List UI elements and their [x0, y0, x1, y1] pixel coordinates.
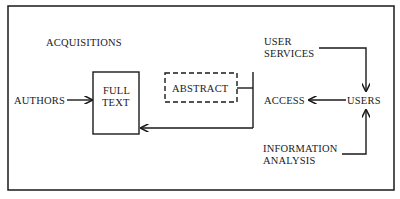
information-analysis-to-users-arrow	[342, 110, 366, 154]
users-label: USERS	[347, 95, 381, 106]
user-services-to-users-arrow	[319, 48, 366, 91]
user-services-label-line2: SERVICES	[264, 48, 314, 59]
outer-frame	[8, 6, 394, 190]
full-text-label-line1: FULL	[103, 85, 130, 96]
acquisitions-label: ACQUISITIONS	[46, 37, 122, 48]
information-analysis-label-line2: ANALYSIS	[263, 155, 315, 166]
information-analysis-label-line1: INFORMATION	[263, 143, 338, 154]
abstract-label: ABSTRACT	[172, 83, 229, 94]
full-text-label-line2: TEXT	[102, 97, 130, 108]
authors-label: AUTHORS	[14, 95, 65, 106]
information-flow-diagram: ACQUISITIONS AUTHORS FULL TEXT ABSTRACT …	[0, 0, 400, 199]
access-label: ACCESS	[264, 95, 305, 106]
user-services-label-line1: USER	[264, 36, 292, 47]
